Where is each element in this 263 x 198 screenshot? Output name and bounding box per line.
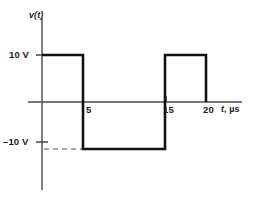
y-axis-label: v(t) [29,10,43,20]
voltage-waveform-figure: v(t) 10 V –10 V 5 15 20 t, µs [0,0,263,198]
x-tick-label-15: 15 [163,104,174,115]
plot-canvas [0,0,263,198]
y-tick-label-plus-ten: 10 V [9,49,29,60]
x-tick-label-20: 20 [203,104,214,115]
y-tick-label-minus-ten: –10 V [3,136,28,147]
x-tick-label-5: 5 [86,104,91,115]
x-axis-label-unit: , µs [224,104,240,114]
x-axis-label: t, µs [221,104,240,114]
